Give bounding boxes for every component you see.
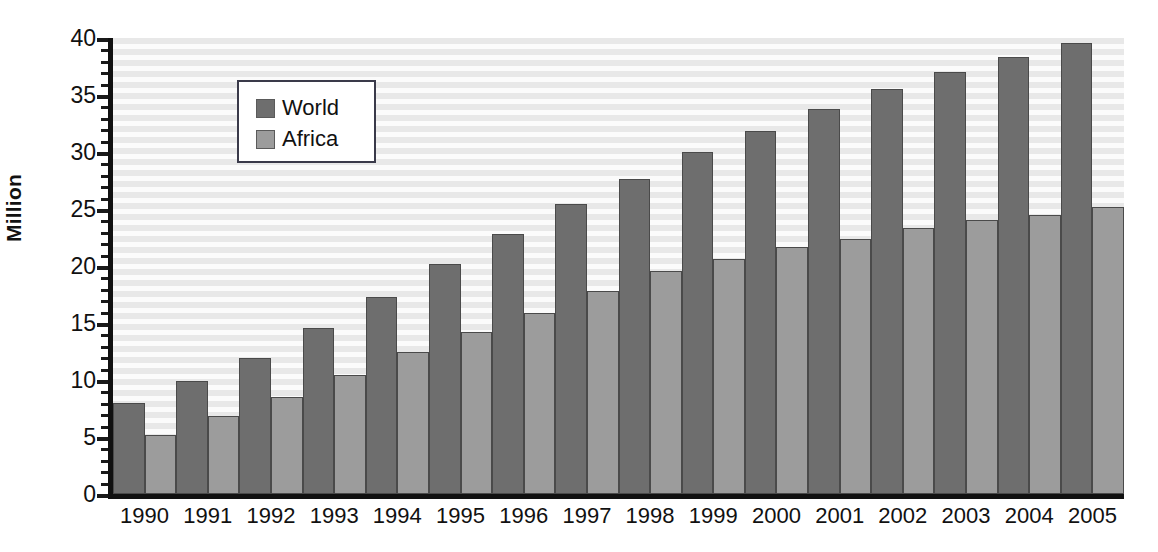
bar-africa-2003	[966, 220, 998, 494]
bar-africa-2001	[840, 239, 872, 494]
bar-world-1993	[303, 328, 335, 494]
bar-world-1994	[366, 297, 398, 494]
legend-swatch-icon	[256, 130, 275, 149]
bar-africa-1993	[334, 375, 366, 494]
x-axis-tick-label: 2002	[871, 504, 934, 528]
bar-group	[492, 38, 555, 494]
x-axis-tick-label: 1992	[239, 504, 302, 528]
bar-group	[934, 38, 997, 494]
bar-group	[745, 38, 808, 494]
bar-africa-2005	[1092, 207, 1124, 494]
x-axis-tick-label: 1993	[303, 504, 366, 528]
bar-world-2003	[934, 72, 966, 494]
y-axis-tick-label: 0	[48, 483, 96, 506]
legend-swatch-icon	[256, 99, 275, 118]
x-axis-tick-label: 2001	[808, 504, 871, 528]
bar-world-1998	[619, 179, 651, 494]
bar-africa-1994	[397, 352, 429, 495]
bar-africa-1991	[208, 416, 240, 494]
x-axis-tick-label: 1996	[492, 504, 555, 528]
bar-africa-1999	[713, 259, 745, 494]
legend-item-africa: Africa	[256, 126, 338, 152]
y-axis-tick-label: 40	[48, 27, 96, 50]
x-axis-tick-label: 2003	[934, 504, 997, 528]
bar-group	[176, 38, 239, 494]
x-axis-tick-label: 2005	[1061, 504, 1124, 528]
bar-africa-1995	[461, 332, 493, 494]
bar-africa-1997	[587, 291, 619, 494]
bar-world-2000	[745, 131, 777, 494]
x-axis-tick-label: 1998	[619, 504, 682, 528]
x-axis-tick-labels: 1990199119921993199419951996199719981999…	[113, 504, 1124, 538]
bar-world-1999	[682, 152, 714, 494]
y-axis-tick-labels: 0510152025303540	[48, 28, 96, 508]
bar-world-2002	[871, 89, 903, 494]
x-axis-tick-label: 2000	[745, 504, 808, 528]
bar-africa-1992	[271, 397, 303, 494]
y-axis-tick-label: 30	[48, 141, 96, 164]
y-axis-tick-label: 25	[48, 198, 96, 221]
bar-world-2001	[808, 109, 840, 494]
x-axis-tick-label: 1999	[682, 504, 745, 528]
bar-world-1990	[113, 403, 145, 494]
y-axis-title: Million	[2, 133, 26, 283]
x-axis-tick-label: 1990	[113, 504, 176, 528]
bar-world-2005	[1061, 43, 1093, 494]
bar-group	[113, 38, 176, 494]
bar-group	[682, 38, 745, 494]
bar-group	[1061, 38, 1124, 494]
bar-group	[619, 38, 682, 494]
bar-world-1996	[492, 234, 524, 494]
y-axis-tick-label: 5	[48, 426, 96, 449]
x-axis-tick-label: 1994	[366, 504, 429, 528]
legend-item-world: World	[256, 95, 339, 121]
bar-africa-2004	[1029, 215, 1061, 494]
x-axis-tick-label: 1997	[555, 504, 618, 528]
bar-africa-1990	[145, 435, 177, 494]
bar-group	[808, 38, 871, 494]
bar-africa-1998	[650, 271, 682, 494]
y-axis-tick-label: 20	[48, 255, 96, 278]
x-axis-line	[108, 494, 1124, 499]
legend-label: World	[282, 97, 339, 119]
bar-group	[429, 38, 492, 494]
bar-world-1997	[555, 204, 587, 494]
y-axis-tick-label: 10	[48, 369, 96, 392]
x-axis-tick-label: 1995	[429, 504, 492, 528]
bar-africa-1996	[524, 313, 556, 494]
bar-group	[555, 38, 618, 494]
bar-group	[871, 38, 934, 494]
bar-africa-2000	[776, 247, 808, 494]
bar-africa-2002	[903, 228, 935, 494]
x-axis-tick-label: 1991	[176, 504, 239, 528]
bar-world-2004	[998, 57, 1030, 494]
bar-world-1992	[239, 358, 271, 494]
bar-world-1995	[429, 264, 461, 494]
bar-group	[998, 38, 1061, 494]
bar-chart: Million 0510152025303540 WorldAfrica 199…	[0, 0, 1158, 552]
legend-label: Africa	[282, 128, 338, 150]
x-axis-tick-label: 2004	[998, 504, 1061, 528]
bar-world-1991	[176, 381, 208, 494]
y-axis-tick-label: 15	[48, 312, 96, 335]
legend: WorldAfrica	[237, 80, 376, 163]
y-axis-tick-label: 35	[48, 84, 96, 107]
